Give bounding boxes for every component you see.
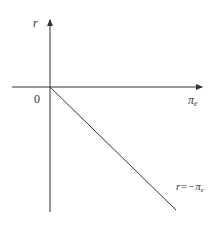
origin-label: 0 [34, 92, 40, 106]
chart-canvas: r 0 πe r=−πe [0, 0, 222, 225]
line-annotation-main: r=−π [176, 180, 201, 192]
line-annotation: r=−πe [176, 180, 204, 194]
series-line-r-equals-minus-pi-e [50, 87, 176, 210]
x-axis-label-subscript: e [194, 99, 198, 108]
line-annotation-subscript: e [201, 186, 204, 194]
x-axis-label: πe [188, 93, 198, 108]
y-axis-label: r [33, 16, 38, 30]
